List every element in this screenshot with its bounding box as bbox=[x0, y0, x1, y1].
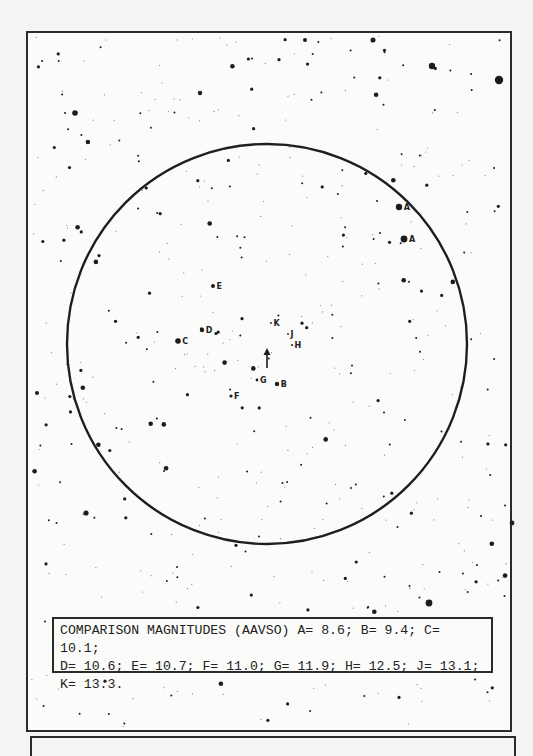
comparison-star-c bbox=[175, 338, 181, 344]
comparison-star-e bbox=[211, 284, 215, 288]
comparison-star-label: A bbox=[409, 235, 416, 244]
comparison-star-a bbox=[401, 236, 408, 243]
comparison-star-h bbox=[291, 344, 293, 346]
comparison-star-label: C bbox=[182, 337, 188, 346]
comparison-star-label: J bbox=[289, 330, 293, 339]
lower-panel-border bbox=[30, 736, 516, 756]
comparison-star-label: H bbox=[295, 341, 302, 350]
comparison-star-label: D bbox=[206, 326, 213, 335]
comparison-star-f bbox=[229, 394, 232, 397]
comparison-star-d bbox=[200, 328, 204, 332]
comparison-magnitudes-caption: COMPARISON MAGNITUDES (AAVSO) A= 8.6; B=… bbox=[52, 617, 493, 673]
comparison-star-label: A bbox=[404, 203, 411, 212]
comparison-star-label: K bbox=[273, 319, 280, 328]
comparison-star-label: E bbox=[217, 282, 222, 291]
comparison-star-b bbox=[275, 382, 279, 386]
comparison-star-a bbox=[396, 204, 402, 210]
comparison-star-k bbox=[270, 322, 272, 324]
comparison-star-g bbox=[256, 379, 259, 382]
comparison-star-label: B bbox=[281, 380, 287, 389]
comparison-star-label: G bbox=[260, 376, 267, 385]
comparison-star-label: F bbox=[234, 392, 239, 401]
comparison-star-j bbox=[287, 333, 289, 335]
